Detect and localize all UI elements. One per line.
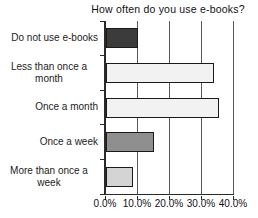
category-label-do-not-use-e-books: Do not use e-books bbox=[0, 21, 102, 56]
category-axis-tick bbox=[100, 55, 104, 56]
bar-more-than-once-a-week bbox=[106, 167, 133, 187]
category-axis-tick bbox=[100, 21, 104, 22]
plot-area bbox=[105, 21, 233, 194]
category-label-text: Do not use e-books bbox=[11, 32, 98, 44]
category-label-text: More than once a week bbox=[0, 165, 98, 189]
bar-once-a-month bbox=[106, 98, 220, 118]
category-label-less-than-once-a-month: Less than once a month bbox=[0, 56, 102, 91]
bar-less-than-once-a-month bbox=[106, 63, 215, 83]
gridline-40-0 bbox=[233, 21, 234, 194]
category-label-text: Once a month bbox=[35, 101, 98, 113]
category-axis-tick bbox=[100, 159, 104, 160]
category-label-once-a-month: Once a month bbox=[0, 90, 102, 125]
category-axis-tick bbox=[100, 124, 104, 125]
bar-once-a-week bbox=[106, 132, 154, 152]
category-label-once-a-week: Once a week bbox=[0, 125, 102, 160]
value-axis-label-40-0: 40.0% bbox=[213, 198, 253, 209]
category-label-more-than-once-a-week: More than once a week bbox=[0, 159, 102, 194]
category-label-text: Less than once a month bbox=[0, 61, 98, 85]
chart-title: How often do you use e-books? bbox=[80, 3, 256, 15]
category-axis-tick bbox=[100, 194, 104, 195]
category-axis-tick bbox=[100, 90, 104, 91]
ebooks-frequency-chart: How often do you use e-books? Do not use… bbox=[0, 0, 258, 218]
category-label-text: Once a week bbox=[40, 136, 98, 148]
bar-do-not-use-e-books bbox=[106, 28, 138, 48]
category-axis-line bbox=[104, 21, 106, 195]
